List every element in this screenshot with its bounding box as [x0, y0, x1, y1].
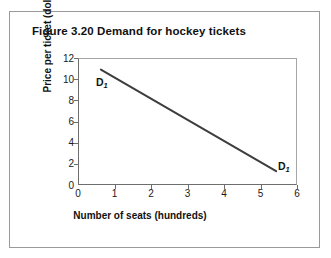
demand-curve-label-end-text: D — [278, 160, 286, 172]
figure-frame: Figure 3.20 Demand for hockey tickets Pr… — [9, 11, 320, 248]
demand-curve-line — [101, 70, 276, 172]
y-axis-tick-label: 2 — [48, 158, 74, 169]
x-axis-tick-label: 0 — [66, 188, 90, 199]
x-axis-tick-labels: 0123456 — [66, 188, 309, 202]
x-axis-tick-mark — [151, 185, 152, 189]
y-axis-tick-mark — [74, 122, 78, 123]
x-axis-tick-label: 5 — [249, 188, 273, 199]
x-axis-tick-label: 4 — [212, 188, 236, 199]
x-axis-tick-label: 3 — [176, 188, 200, 199]
y-axis-tick-labels: 024681012 — [48, 52, 74, 191]
x-axis-tick-label: 1 — [103, 188, 127, 199]
y-axis-tick-mark — [74, 100, 78, 101]
y-axis-tick-mark — [74, 143, 78, 144]
demand-curve-label-end-subscript: 1 — [286, 165, 290, 174]
y-axis-tick-mark — [74, 79, 78, 80]
demand-curve-label-start: D1 — [96, 76, 108, 88]
x-axis-tick-mark — [297, 185, 298, 189]
y-axis-tick-label: 6 — [48, 116, 74, 127]
y-axis-tick-mark — [74, 58, 78, 59]
y-axis-tick-label: 8 — [48, 95, 74, 106]
x-axis-tick-mark — [261, 185, 262, 189]
demand-curve-svg — [79, 59, 298, 186]
x-axis-tick-label: 6 — [285, 188, 309, 199]
demand-curve-label-end: D1 — [278, 160, 290, 172]
y-axis-tick-label: 4 — [48, 137, 74, 148]
x-axis-tick-label: 2 — [139, 188, 163, 199]
y-axis-tick-label: 10 — [48, 74, 74, 85]
x-axis-tick-mark — [224, 185, 225, 189]
demand-curve-label-start-subscript: 1 — [104, 81, 108, 90]
y-axis-tick-mark — [74, 164, 78, 165]
x-axis-tick-mark — [115, 185, 116, 189]
plot-area — [78, 58, 297, 185]
x-axis-title: Number of seats (hundreds) — [10, 210, 270, 221]
y-axis-tick-label: 12 — [48, 53, 74, 64]
demand-curve-label-start-text: D — [96, 76, 104, 88]
figure-title: Figure 3.20 Demand for hockey tickets — [32, 25, 246, 37]
x-axis-tick-mark — [188, 185, 189, 189]
